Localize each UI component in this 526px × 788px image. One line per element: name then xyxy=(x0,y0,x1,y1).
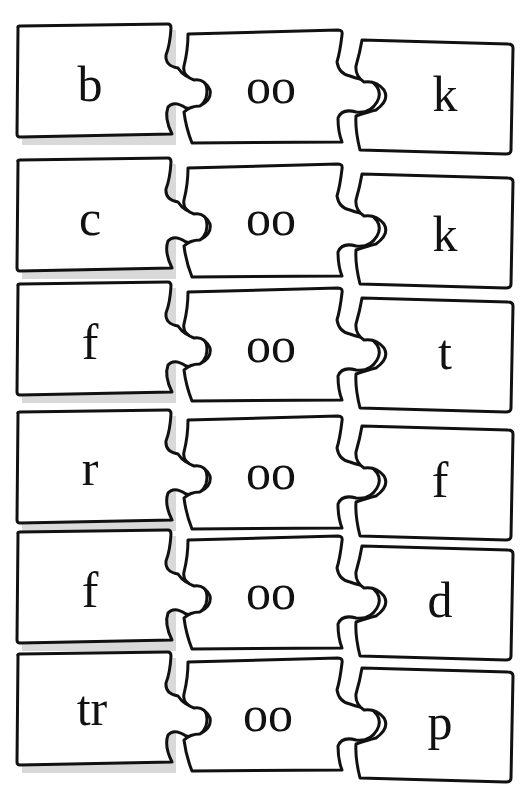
vowel-label: oo xyxy=(246,447,296,497)
onset-label: f xyxy=(82,317,99,367)
coda-label: k xyxy=(433,69,458,119)
onset-label: c xyxy=(79,193,101,243)
onset-label: r xyxy=(82,443,99,493)
left-piece[interactable] xyxy=(17,24,207,137)
left-piece[interactable] xyxy=(17,410,207,523)
coda-label: k xyxy=(433,209,458,259)
vowel-label: oo xyxy=(246,567,296,617)
coda-label: t xyxy=(438,327,452,377)
left-piece[interactable] xyxy=(17,158,207,271)
coda-label: f xyxy=(432,455,449,505)
onset-label: tr xyxy=(77,683,108,733)
left-piece[interactable] xyxy=(17,282,207,395)
coda-label: d xyxy=(428,575,453,625)
vowel-label: oo xyxy=(246,61,296,111)
left-piece[interactable] xyxy=(17,652,207,765)
left-piece[interactable] xyxy=(17,530,207,643)
onset-label: f xyxy=(82,565,99,615)
vowel-label: oo xyxy=(246,193,296,243)
onset-label: b xyxy=(78,59,103,109)
coda-label: p xyxy=(428,697,453,747)
vowel-label: oo xyxy=(246,320,296,370)
vowel-label: oo xyxy=(243,689,293,739)
